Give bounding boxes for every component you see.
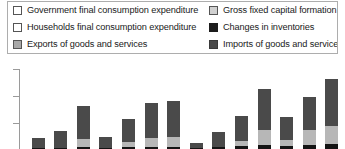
bar-segment (145, 138, 158, 147)
bar-segment (122, 147, 135, 149)
bar-segment (77, 147, 90, 149)
bar-segment (99, 148, 112, 149)
bar-segment (280, 146, 293, 149)
bar-segment (235, 146, 248, 149)
legend-item-households-final-consumption-expenditure[interactable]: Households final consumption expenditure (13, 19, 209, 36)
bar-slot (255, 89, 273, 149)
y-axis-line (19, 69, 20, 149)
bar[interactable] (212, 132, 225, 149)
bar-slot (119, 119, 137, 149)
bar-segment (167, 137, 180, 147)
y-axis-tick (13, 69, 20, 70)
bar-segment (303, 145, 316, 149)
legend-label: Government final consumption expenditure (27, 5, 198, 16)
bar-segment (235, 116, 248, 141)
bar[interactable] (325, 79, 338, 149)
bar-segment (54, 131, 67, 148)
bar[interactable] (280, 117, 293, 149)
bar-segment (77, 139, 90, 147)
y-axis-tick (13, 123, 20, 124)
bar-slot (187, 143, 205, 149)
bar-segment (258, 89, 271, 130)
bar-slot (97, 137, 115, 149)
bar[interactable] (167, 101, 180, 149)
bar-segment (167, 147, 180, 149)
bar-slot (74, 106, 92, 149)
bar-segment (280, 117, 293, 140)
chart-screenshot: Government final consumption expenditure… (0, 0, 345, 149)
legend-label: Households final consumption expenditure (27, 22, 196, 33)
bar[interactable] (235, 116, 248, 149)
chart-legend: Government final consumption expenditure… (7, 1, 338, 54)
bar-slot (300, 97, 318, 149)
bar-segment (145, 147, 158, 149)
bar-slot (210, 132, 228, 149)
bar[interactable] (77, 106, 90, 149)
bar[interactable] (145, 103, 158, 149)
legend-item-gross-fixed-capital-formation[interactable]: Gross fixed capital formation (209, 2, 337, 19)
legend-item-exports-of-goods-and-services[interactable]: Exports of goods and services (13, 36, 209, 53)
bar[interactable] (54, 131, 67, 149)
bar-segment (190, 148, 203, 149)
bar-segment (99, 137, 112, 148)
bar[interactable] (303, 97, 316, 149)
legend-swatch-icon-government (13, 6, 22, 15)
bar-segment (325, 144, 338, 149)
legend-item-changes-in-inventories[interactable]: Changes in inventories (209, 19, 337, 36)
legend-grid: Government final consumption expenditure… (8, 2, 337, 53)
bar-segment (122, 119, 135, 142)
legend-item-imports-of-goods-and-services[interactable]: Imports of goods and services (209, 36, 337, 53)
bar-segment (325, 79, 338, 126)
bar-segment (212, 132, 225, 147)
bar-slot (278, 117, 296, 149)
bar[interactable] (122, 119, 135, 149)
legend-label: Exports of goods and services (27, 39, 147, 50)
bar-segment (77, 106, 90, 139)
legend-label: Gross fixed capital formation (223, 5, 337, 16)
legend-swatch-icon-gross-fixed-capital-formation (209, 6, 218, 15)
bar-segment (325, 126, 338, 144)
legend-label: Imports of goods and services (223, 39, 337, 50)
bar[interactable] (190, 143, 203, 149)
legend-swatch-icon-exports (13, 40, 22, 49)
legend-item-government-final-consumption-expenditure[interactable]: Government final consumption expenditure (13, 2, 209, 19)
bar[interactable] (258, 89, 271, 149)
bar-slot (232, 116, 250, 149)
bar-segment (167, 101, 180, 137)
bar-segment (303, 130, 316, 145)
bar-slot (142, 103, 160, 149)
bar-slot (165, 101, 183, 149)
bar-segment (32, 138, 45, 148)
bar-segment (303, 97, 316, 130)
legend-swatch-icon-changes-in-inventories (209, 23, 218, 32)
bar[interactable] (99, 137, 112, 149)
bar-slot (52, 131, 70, 149)
bar-slot (323, 79, 341, 149)
bar-slot (29, 138, 47, 149)
y-axis-tick (13, 96, 20, 97)
bar-segment (212, 147, 225, 149)
legend-label: Changes in inventories (223, 22, 314, 33)
stacked-bars (23, 58, 345, 149)
bars-container (23, 58, 345, 149)
bar-segment (258, 130, 271, 145)
bar-segment (32, 148, 45, 149)
legend-swatch-icon-households (13, 23, 22, 32)
bar-segment (145, 103, 158, 138)
legend-swatch-icon-imports (209, 40, 218, 49)
chart-plot-area (0, 58, 345, 149)
bar-segment (54, 148, 67, 149)
bar-segment (258, 145, 271, 149)
bar[interactable] (32, 138, 45, 149)
